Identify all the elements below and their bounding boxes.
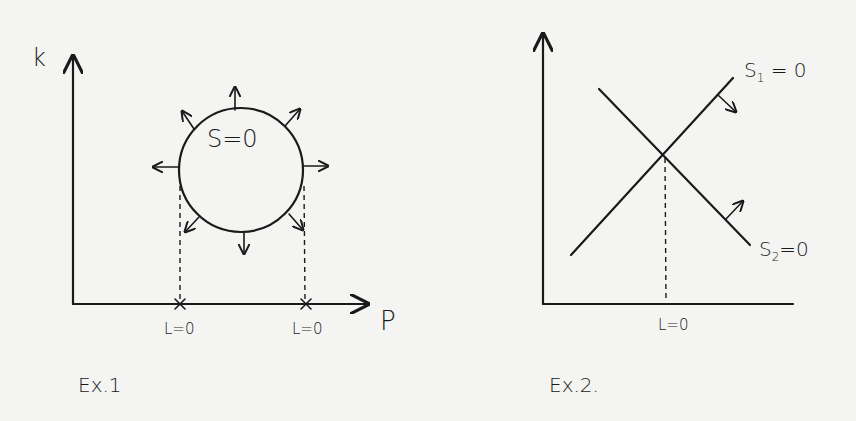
y-axis-label: k	[32, 44, 46, 72]
curve-label-s: S=0	[207, 125, 258, 153]
normal-arrow-s2	[726, 201, 743, 219]
figure-ex2: S1 = 0 S2=0 L=0 Ex.2.	[543, 34, 809, 397]
projection-intersection	[665, 158, 666, 302]
intersection-label-left: L=0	[164, 320, 194, 338]
x-axis-label: P	[380, 306, 396, 336]
figure-caption-ex1: Ex.1	[78, 373, 122, 397]
normal-arrow-s1	[718, 95, 736, 112]
line-label-s2: S2=0	[759, 237, 809, 264]
diagram-canvas: k P S=0 L=0 L=0 Ex.1	[0, 0, 856, 421]
line-s1	[571, 78, 733, 255]
line-label-s1: S1 = 0	[744, 58, 807, 85]
figure-caption-ex2: Ex.2.	[549, 373, 599, 397]
line-s2	[599, 89, 750, 245]
figure-ex1: k P S=0 L=0 L=0 Ex.1	[32, 44, 396, 397]
intersection-label: L=0	[658, 316, 688, 334]
projection-right	[304, 186, 305, 300]
intersection-label-right: L=0	[292, 320, 322, 338]
